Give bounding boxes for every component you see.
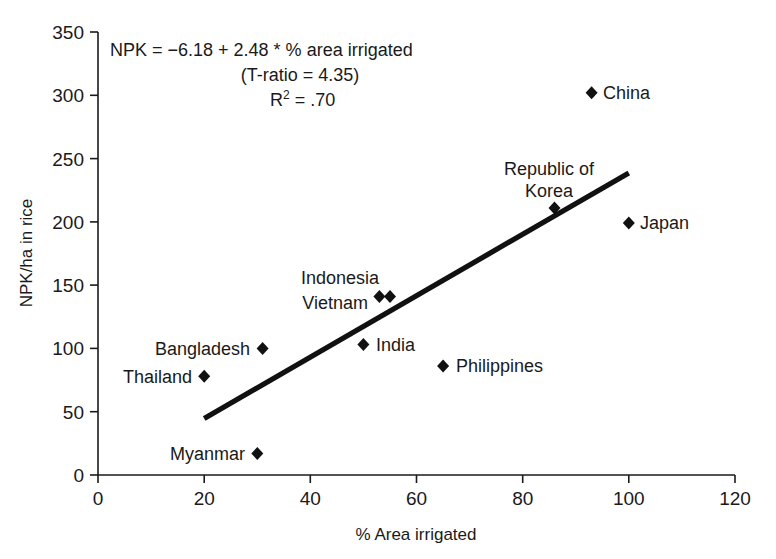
data-marker[interactable] — [623, 217, 635, 230]
y-tick-label: 0 — [73, 465, 84, 486]
data-marker[interactable] — [373, 290, 385, 303]
y-tick-label: 350 — [52, 22, 84, 43]
y-tick-label: 200 — [52, 212, 84, 233]
regression-annotation: NPK = −6.18 + 2.48 * % area irrigated (T… — [110, 40, 413, 110]
y-tick-label: 150 — [52, 275, 84, 296]
data-point-republic-of-korea[interactable]: Republic of Korea — [504, 159, 595, 214]
data-point-thailand[interactable]: Thailand — [123, 367, 210, 387]
x-tick-label: 20 — [194, 488, 215, 509]
data-point-myanmar[interactable]: Myanmar — [170, 444, 263, 464]
data-point-india[interactable]: India — [357, 335, 416, 355]
data-point-label: Japan — [640, 213, 689, 233]
x-tick-label: 120 — [719, 488, 751, 509]
data-point-label: Myanmar — [170, 444, 245, 464]
data-point-japan[interactable]: Japan — [623, 213, 689, 233]
data-point-label: Republic of — [504, 159, 595, 179]
data-point-label: Vietnam — [302, 293, 368, 313]
regression-equation: NPK = −6.18 + 2.48 * % area irrigated — [110, 40, 413, 60]
x-ticks-group — [98, 475, 735, 483]
scatter-plot: 0 50 100 150 200 250 300 350 0 20 40 60 … — [0, 0, 776, 559]
r-squared-text: R2 = .70 — [270, 88, 335, 110]
x-axis-title: % Area irrigated — [356, 525, 477, 544]
t-ratio-text: (T-ratio = 4.35) — [241, 65, 360, 85]
data-point-bangladesh[interactable]: Bangladesh — [155, 339, 269, 359]
data-point-label: China — [603, 83, 651, 103]
x-tick-label: 100 — [613, 488, 645, 509]
data-marker[interactable] — [384, 290, 396, 303]
y-tick-labels-group: 0 50 100 150 200 250 300 350 — [52, 22, 84, 486]
data-point-label: India — [376, 335, 416, 355]
y-tick-label: 250 — [52, 149, 84, 170]
x-tick-labels-group: 0 20 40 60 80 100 120 — [93, 488, 751, 509]
y-tick-label: 300 — [52, 85, 84, 106]
data-marker[interactable] — [437, 360, 449, 373]
y-ticks-group — [90, 32, 98, 475]
y-tick-label: 100 — [52, 338, 84, 359]
y-axis-title: NPK/ha in rice — [17, 199, 36, 308]
regression-trendline — [204, 173, 629, 419]
x-tick-label: 40 — [300, 488, 321, 509]
data-marker[interactable] — [251, 447, 263, 460]
data-point-label: Korea — [525, 181, 574, 201]
r-squared-base: R — [270, 90, 283, 110]
data-point-china[interactable]: China — [586, 83, 651, 103]
r-squared-value: = .70 — [290, 90, 336, 110]
data-point-label: Philippines — [456, 356, 543, 376]
data-points-group: Thailand Bangladesh Myanmar India Vietna… — [123, 83, 689, 464]
chart-container: 0 50 100 150 200 250 300 350 0 20 40 60 … — [0, 0, 776, 559]
data-marker[interactable] — [586, 86, 598, 99]
data-marker[interactable] — [357, 338, 369, 351]
x-tick-label: 60 — [406, 488, 427, 509]
data-point-label: Bangladesh — [155, 339, 250, 359]
x-tick-label: 0 — [93, 488, 104, 509]
data-marker[interactable] — [257, 342, 269, 355]
data-point-vietnam[interactable]: Vietnam — [302, 290, 385, 313]
y-tick-label: 50 — [63, 402, 84, 423]
data-marker[interactable] — [198, 370, 210, 383]
data-point-label: Indonesia — [301, 268, 380, 288]
data-point-label: Thailand — [123, 367, 192, 387]
x-tick-label: 80 — [512, 488, 533, 509]
data-point-philippines[interactable]: Philippines — [437, 356, 543, 376]
